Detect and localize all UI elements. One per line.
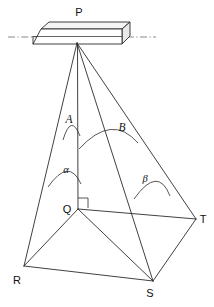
right-angle-mark-at-q bbox=[78, 198, 88, 208]
ceiling-plate bbox=[33, 22, 130, 44]
figure-canvas: P Q R S T A B α β bbox=[0, 0, 214, 307]
angle-label-b: B bbox=[118, 121, 125, 133]
arc-angle-beta bbox=[134, 181, 170, 199]
angle-label-beta: β bbox=[141, 173, 148, 184]
edge-qt bbox=[78, 209, 196, 219]
angle-label-alpha: α bbox=[63, 164, 69, 175]
angle-label-a: A bbox=[64, 113, 73, 125]
vertex-labels: P Q R S T bbox=[13, 6, 207, 299]
vertex-label-q: Q bbox=[63, 203, 72, 215]
plate-top-face bbox=[41, 22, 130, 29]
edge-rs bbox=[24, 266, 153, 281]
edge-pr bbox=[24, 43, 77, 266]
vertex-label-r: R bbox=[13, 274, 21, 286]
geometry-figure: P Q R S T A B α β bbox=[0, 0, 214, 307]
arc-angle-b bbox=[79, 129, 138, 149]
edge-pq-vertical bbox=[78, 43, 79, 209]
edge-pt bbox=[77, 43, 196, 219]
base-edges bbox=[24, 209, 196, 281]
apex-edges bbox=[24, 43, 196, 281]
edge-qr bbox=[24, 209, 78, 266]
angle-label-group: A B α β bbox=[63, 113, 148, 184]
angle-arcs bbox=[48, 125, 170, 199]
vertex-label-s: S bbox=[146, 287, 153, 299]
edge-ps bbox=[77, 43, 153, 281]
vertex-label-t: T bbox=[200, 213, 207, 225]
edge-st bbox=[153, 219, 196, 281]
vertex-label-p: P bbox=[75, 6, 82, 18]
